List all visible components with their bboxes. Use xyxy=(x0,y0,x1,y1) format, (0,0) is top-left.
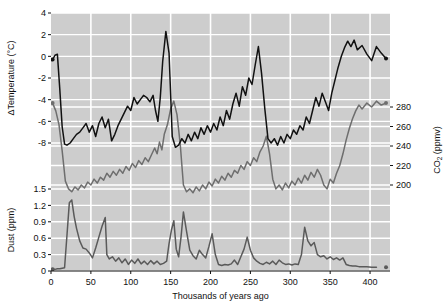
temperature-axis-title: ΔTemperature (°C) xyxy=(6,40,16,115)
co2-tick-label: 240 xyxy=(396,141,411,151)
temp-tick-label: -6 xyxy=(38,117,46,127)
x-tick-label: 250 xyxy=(243,277,258,287)
co2-axis: 280260240220200CO2 (ppmv) xyxy=(390,102,443,190)
climate-chart: 050100150200250300350400Thousands of yea… xyxy=(0,0,447,307)
x-tick-label: 400 xyxy=(363,277,378,287)
co2-axis-title-main: CO xyxy=(432,160,442,174)
x-tick-label: 0 xyxy=(48,277,53,287)
series-line-temperature-end-marker xyxy=(384,57,388,61)
dust-tick-label: 0.9 xyxy=(33,217,46,227)
series-line-temperature-start-marker xyxy=(51,58,55,62)
series-line-dust-end-marker xyxy=(384,265,388,269)
temp-tick-label: -2 xyxy=(38,73,46,83)
dust-tick-label: 0.6 xyxy=(33,233,46,243)
dust-tick-label: 0.3 xyxy=(33,250,46,260)
co2-tick-label: 260 xyxy=(396,122,411,132)
co2-axis-title-unit: (ppmv) xyxy=(432,126,442,157)
dust-tick-label: 1.2 xyxy=(33,201,46,211)
temperature-axis: 420-2-4-6-8ΔTemperature (°C) xyxy=(6,8,51,148)
x-tick-label: 100 xyxy=(123,277,138,287)
x-axis-title: Thousands of years ago xyxy=(172,291,269,301)
x-axis: 050100150200250300350400Thousands of yea… xyxy=(48,271,377,301)
temp-tick-label: 4 xyxy=(41,8,46,18)
temp-tick-label: 2 xyxy=(41,30,46,40)
temp-tick-label: 0 xyxy=(41,52,46,62)
x-tick-label: 150 xyxy=(163,277,178,287)
dust-tick-label: 0 xyxy=(41,266,46,276)
co2-axis-title-text: CO2 (ppmv) xyxy=(432,126,443,174)
co2-tick-label: 200 xyxy=(396,180,411,190)
dust-axis-title: Dust (ppm) xyxy=(6,208,16,253)
co2-tick-label: 220 xyxy=(396,161,411,171)
x-tick-label: 200 xyxy=(203,277,218,287)
dust-axis: 1.51.20.90.60.30Dust (ppm) xyxy=(6,184,51,276)
dust-tick-label: 1.5 xyxy=(33,184,46,194)
co2-axis-title: CO2 (ppmv) xyxy=(432,126,443,174)
temp-tick-label: -4 xyxy=(38,95,46,105)
x-tick-label: 300 xyxy=(283,277,298,287)
x-tick-label: 50 xyxy=(86,277,96,287)
temp-tick-label: -8 xyxy=(38,138,46,148)
plot-area-background xyxy=(51,13,390,271)
x-tick-label: 350 xyxy=(323,277,338,287)
series-line-co2-end-marker xyxy=(384,101,388,105)
co2-tick-label: 280 xyxy=(396,102,411,112)
chart-canvas: 050100150200250300350400Thousands of yea… xyxy=(0,0,447,307)
series-line-co2-start-marker xyxy=(51,101,55,105)
